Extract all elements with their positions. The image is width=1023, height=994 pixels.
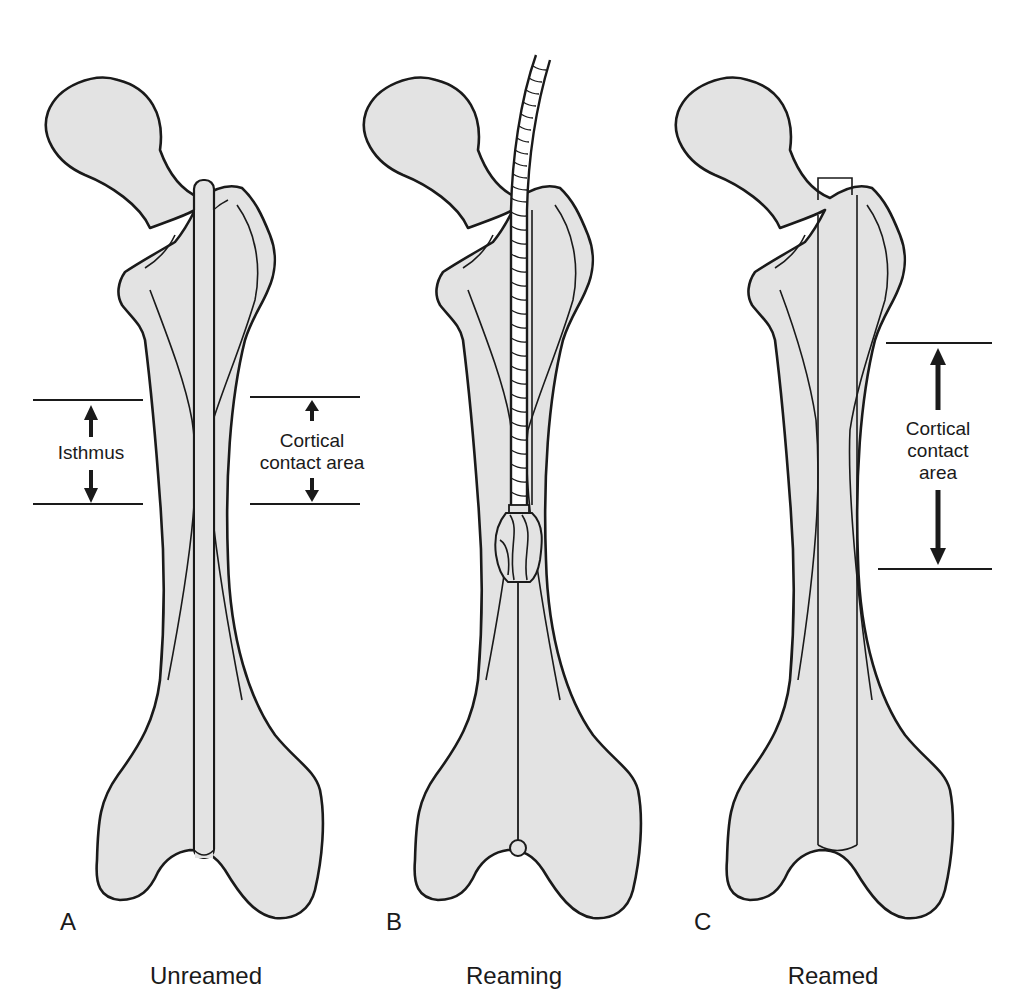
isthmus-label: Isthmus bbox=[46, 442, 136, 464]
femur-panel-b bbox=[364, 78, 641, 919]
femur-panel-c bbox=[676, 78, 953, 919]
caption-reaming: Reaming bbox=[414, 962, 614, 990]
cortical-contact-label-c: Cortical contact area bbox=[888, 418, 988, 484]
femur-panel-a bbox=[46, 78, 323, 919]
caption-unreamed: Unreamed bbox=[106, 962, 306, 990]
cortical-a-line1: Cortical bbox=[248, 430, 376, 452]
panel-letter-b: B bbox=[386, 908, 402, 936]
femur-diagram bbox=[0, 0, 1023, 994]
cortical-c-line3: area bbox=[888, 462, 988, 484]
cortical-c-line2: contact bbox=[888, 440, 988, 462]
cortical-contact-label-a: Cortical contact area bbox=[248, 430, 376, 474]
cortical-c-line1: Cortical bbox=[888, 418, 988, 440]
reamer-head bbox=[495, 513, 541, 582]
caption-reamed: Reamed bbox=[733, 962, 933, 990]
panel-letter-c: C bbox=[694, 908, 711, 936]
panel-letter-a: A bbox=[60, 908, 76, 936]
cortical-a-line2: contact area bbox=[248, 452, 376, 474]
